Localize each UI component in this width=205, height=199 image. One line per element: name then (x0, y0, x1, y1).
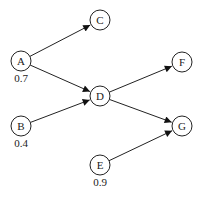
node-probability: 0.7 (14, 72, 28, 84)
node-label: D (96, 90, 104, 102)
node-f: F (172, 52, 192, 72)
node-c: C (90, 10, 110, 30)
graph-canvas: A0.7B0.4CDE0.9FG (0, 0, 205, 199)
edge-b-d (30, 100, 89, 123)
node-e: E0.9 (90, 155, 110, 188)
node-label: A (17, 55, 25, 67)
node-a: A0.7 (11, 51, 31, 84)
node-probability: 0.9 (93, 176, 107, 188)
edge-e-g (109, 131, 172, 161)
edge-a-d (30, 65, 90, 91)
node-label: G (178, 120, 186, 132)
nodes: A0.7B0.4CDE0.9FG (11, 10, 192, 188)
node-label: F (179, 56, 185, 68)
node-b: B0.4 (11, 116, 31, 149)
edge-d-f (109, 66, 172, 92)
node-label: C (96, 14, 103, 26)
node-label: B (17, 120, 24, 132)
node-label: E (97, 159, 104, 171)
node-d: D (90, 86, 110, 106)
node-g: G (172, 116, 192, 136)
edge-a-c (30, 25, 90, 56)
edge-d-g (109, 99, 171, 122)
node-probability: 0.4 (14, 137, 28, 149)
